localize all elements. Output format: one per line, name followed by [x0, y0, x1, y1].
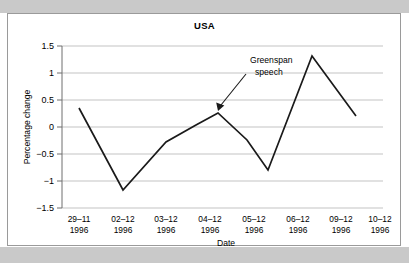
y-axis-tick-labels: 1.5 1 0.5 0 −0.5 −1 −1.5	[36, 41, 54, 213]
x-tick-label-line1: 05–12	[242, 214, 266, 224]
x-axis-tick-labels: 29–11 1996 02–12 1996 03–12 1996 04–12 1…	[68, 214, 392, 235]
x-tick-label-line2: 1996	[245, 225, 264, 235]
y-axis-title: Percentage change	[22, 90, 32, 165]
annotation-label: Greenspan speech	[250, 55, 293, 77]
y-axis-title-label: Percentage change	[22, 90, 32, 165]
x-tick-label-line2: 1996	[157, 225, 176, 235]
y-tick-label: 0.5	[41, 95, 54, 105]
x-tick-label-line2: 1996	[289, 225, 308, 235]
x-tick-label-line2: 1996	[201, 225, 220, 235]
chart-figure: USA 1.5 1 0.5	[0, 0, 409, 263]
x-axis-title: Date	[217, 238, 235, 248]
x-tick-label-line1: 29–11	[68, 214, 91, 224]
y-tick-label: 0	[49, 122, 54, 132]
y-tick-label: −0.5	[36, 149, 54, 159]
x-tick-label-line1: 03–12	[154, 214, 178, 224]
y-tick-label: −1.5	[36, 203, 54, 213]
y-tick-label: 1	[49, 68, 54, 78]
y-tick-label: 1.5	[41, 41, 54, 51]
x-tick-label-line1: 04–12	[198, 214, 222, 224]
x-tick-label-line2: 1996	[70, 225, 89, 235]
annotation-line1: Greenspan	[250, 55, 293, 65]
x-tick-label-line1: 02–12	[111, 214, 135, 224]
x-tick-label-line2: 1996	[371, 225, 390, 235]
x-tick-label-line1: 06–12	[286, 214, 310, 224]
x-tick-label-line1: 10–12	[368, 214, 392, 224]
greenspan-speech-annotation	[216, 74, 246, 111]
data-series-usa	[79, 56, 356, 190]
x-tick-label-line1: 09–12	[329, 214, 353, 224]
x-axis-title-label: Date	[217, 238, 235, 248]
x-tick-label-line2: 1996	[332, 225, 351, 235]
y-axis-tickmarks	[57, 46, 62, 208]
x-tick-label-line2: 1996	[114, 225, 133, 235]
chart-plot-area: 1.5 1 0.5 0 −0.5 −1 −1.5 Percentage chan…	[0, 0, 409, 263]
gridlines	[62, 46, 383, 208]
y-tick-label: −1	[44, 176, 54, 186]
annotation-line2: speech	[255, 67, 283, 77]
